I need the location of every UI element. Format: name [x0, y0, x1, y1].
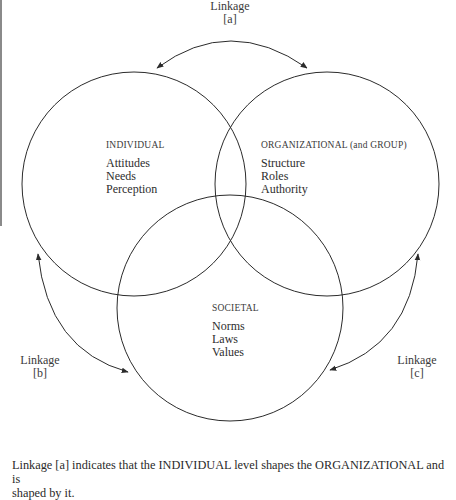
societal-items: Norms Laws Values [212, 320, 245, 359]
individual-item: Perception [106, 183, 157, 196]
organizational-circle [215, 72, 439, 296]
individual-items: Attitudes Needs Perception [106, 157, 157, 196]
societal-item: Values [212, 346, 245, 359]
caption-line-1: Linkage [a] indicates that the INDIVIDUA… [12, 458, 452, 486]
linkage-a-tag: [a] [200, 13, 260, 26]
caption-line-2: shaped by it. [12, 486, 452, 500]
linkage-b-tag: [b] [12, 367, 68, 380]
organizational-heading: ORGANIZATIONAL (and GROUP) [261, 140, 407, 150]
organizational-item: Authority [261, 183, 308, 196]
figure-caption: Linkage [a] indicates that the INDIVIDUA… [12, 458, 452, 500]
linkage-b-label: Linkage [b] [12, 354, 68, 380]
individual-heading: INDIVIDUAL [106, 140, 164, 150]
linkage-a-arrow [157, 41, 307, 68]
linkage-a-label: Linkage [a] [200, 0, 260, 26]
organizational-items: Structure Roles Authority [261, 157, 308, 196]
linkage-c-label: Linkage [c] [389, 354, 445, 380]
societal-heading: SOCIETAL [212, 303, 259, 313]
linkage-c-tag: [c] [389, 367, 445, 380]
